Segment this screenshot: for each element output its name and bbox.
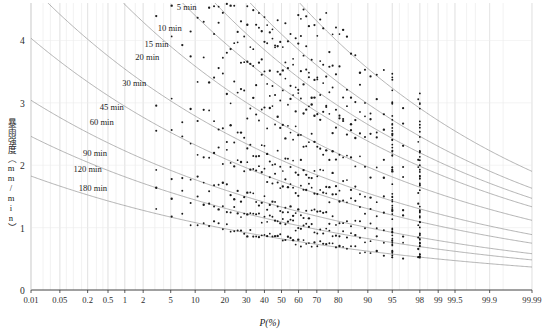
data-point bbox=[279, 210, 281, 212]
x-tick-label: 99.5 bbox=[447, 295, 462, 305]
data-point bbox=[419, 233, 421, 235]
data-point bbox=[208, 157, 210, 159]
data-point bbox=[391, 205, 393, 207]
data-point bbox=[332, 242, 334, 244]
data-point bbox=[383, 69, 385, 71]
data-point bbox=[249, 107, 251, 109]
data-point bbox=[303, 239, 305, 241]
x-tick-label: 0.5 bbox=[103, 295, 114, 305]
data-point bbox=[369, 118, 371, 120]
data-point bbox=[290, 166, 292, 168]
data-point bbox=[252, 155, 254, 157]
data-point bbox=[213, 77, 215, 79]
data-point bbox=[233, 165, 235, 167]
data-point bbox=[383, 255, 385, 257]
x-tick-label: 95 bbox=[388, 295, 397, 305]
data-point bbox=[222, 57, 224, 59]
data-point bbox=[208, 7, 210, 9]
data-point bbox=[292, 64, 294, 66]
data-point bbox=[319, 60, 321, 62]
data-point bbox=[297, 134, 299, 136]
data-point bbox=[272, 164, 274, 166]
data-point bbox=[252, 192, 254, 194]
data-point bbox=[313, 141, 315, 143]
data-point bbox=[274, 220, 276, 222]
data-point bbox=[391, 89, 393, 91]
data-point bbox=[376, 167, 378, 169]
data-point bbox=[391, 201, 393, 203]
data-point bbox=[350, 156, 352, 158]
data-point bbox=[419, 189, 421, 191]
data-point bbox=[303, 9, 305, 11]
y-tick-label: 2 bbox=[20, 160, 25, 171]
data-point bbox=[155, 15, 157, 17]
data-point bbox=[237, 132, 239, 134]
data-point bbox=[300, 246, 302, 248]
data-point bbox=[417, 166, 419, 168]
data-point bbox=[287, 221, 289, 223]
data-point bbox=[402, 166, 404, 168]
data-point bbox=[208, 225, 210, 227]
data-point bbox=[255, 113, 257, 115]
data-point bbox=[266, 209, 268, 211]
data-point bbox=[335, 246, 337, 248]
data-point bbox=[255, 169, 257, 171]
data-point bbox=[237, 92, 239, 94]
data-point bbox=[274, 124, 276, 126]
data-point bbox=[322, 154, 324, 156]
data-point bbox=[290, 33, 292, 35]
data-point bbox=[213, 5, 215, 7]
data-point bbox=[338, 235, 340, 237]
data-point bbox=[322, 232, 324, 234]
data-point bbox=[261, 234, 263, 236]
data-point bbox=[292, 215, 294, 217]
data-point bbox=[322, 111, 324, 113]
data-point bbox=[354, 165, 356, 167]
data-point bbox=[339, 33, 341, 35]
data-point bbox=[155, 169, 157, 171]
data-point bbox=[282, 170, 284, 172]
data-point bbox=[229, 4, 231, 6]
data-point bbox=[376, 250, 378, 252]
data-point bbox=[332, 65, 334, 67]
data-point bbox=[246, 24, 248, 26]
data-point bbox=[335, 193, 337, 195]
data-point bbox=[252, 97, 254, 99]
curve-label-10min: 10 min bbox=[158, 23, 182, 33]
data-point bbox=[297, 227, 299, 229]
data-point bbox=[305, 223, 307, 225]
data-point bbox=[313, 231, 315, 233]
data-point bbox=[243, 170, 245, 172]
data-point bbox=[287, 211, 289, 213]
data-point bbox=[313, 79, 315, 81]
data-point bbox=[277, 19, 279, 21]
data-point bbox=[300, 35, 302, 37]
data-point bbox=[332, 235, 334, 237]
data-point bbox=[383, 113, 385, 115]
data-point bbox=[311, 246, 313, 248]
data-point bbox=[342, 246, 344, 248]
data-point bbox=[319, 148, 321, 150]
data-point bbox=[266, 235, 268, 237]
data-point bbox=[300, 214, 302, 216]
data-point bbox=[226, 3, 228, 5]
data-point bbox=[303, 146, 305, 148]
data-point bbox=[417, 203, 419, 205]
data-point bbox=[297, 208, 299, 210]
data-point bbox=[292, 160, 294, 162]
data-point bbox=[335, 73, 337, 75]
data-point bbox=[402, 145, 404, 147]
data-point bbox=[391, 213, 393, 215]
data-point bbox=[266, 128, 268, 130]
data-point bbox=[359, 237, 361, 239]
x-tick-label: 20 bbox=[221, 295, 230, 305]
data-point bbox=[311, 223, 313, 225]
data-point bbox=[218, 129, 220, 131]
data-point bbox=[237, 41, 239, 43]
data-point bbox=[417, 224, 419, 226]
data-point bbox=[246, 147, 248, 149]
data-point bbox=[331, 193, 333, 195]
data-point bbox=[282, 185, 284, 187]
data-point bbox=[322, 169, 324, 171]
data-point bbox=[290, 183, 292, 185]
